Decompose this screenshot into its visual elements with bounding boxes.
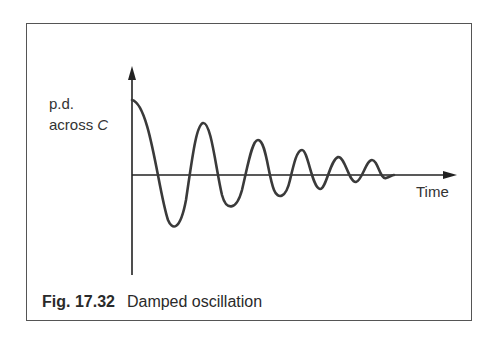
y-axis-label-line2: across C bbox=[49, 114, 108, 135]
y-axis-label-line1: p.d. bbox=[49, 93, 108, 114]
oscillation-curve bbox=[132, 100, 394, 227]
y-axis-label: p.d. across C bbox=[49, 93, 108, 135]
y-axis-label-prefix: across bbox=[49, 116, 97, 133]
figure-caption: Fig. 17.32Damped oscillation bbox=[42, 293, 262, 311]
figure-number: Fig. 17.32 bbox=[42, 293, 115, 310]
y-axis-label-variable: C bbox=[97, 116, 108, 133]
x-axis-label: Time bbox=[416, 183, 449, 200]
x-axis-arrow-icon bbox=[443, 171, 457, 179]
figure-title: Damped oscillation bbox=[127, 293, 262, 310]
y-axis-arrow-icon bbox=[128, 66, 136, 80]
